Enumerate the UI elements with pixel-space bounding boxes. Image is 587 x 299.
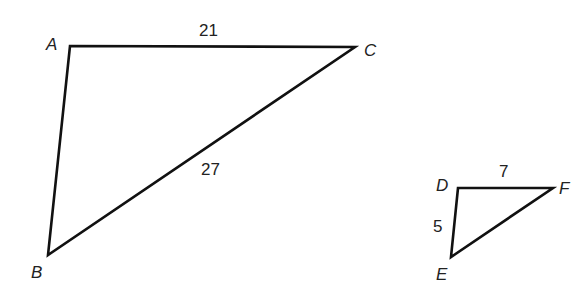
triangle-abc: [48, 46, 355, 255]
triangle-def: [451, 188, 553, 257]
vertex-label-c: C: [364, 41, 377, 60]
vertex-label-d: D: [436, 176, 448, 195]
side-label-ac: 21: [199, 21, 218, 40]
side-label-df: 7: [499, 162, 508, 181]
side-label-bc: 27: [201, 160, 220, 179]
vertex-label-f: F: [559, 179, 571, 198]
vertex-label-b: B: [31, 263, 42, 282]
vertex-label-e: E: [436, 265, 448, 284]
diagram-canvas: A B C 21 27 D E F 7 5: [0, 0, 587, 299]
triangles-svg: A B C 21 27 D E F 7 5: [0, 0, 587, 299]
side-label-de: 5: [433, 217, 442, 236]
vertex-label-a: A: [45, 35, 57, 54]
